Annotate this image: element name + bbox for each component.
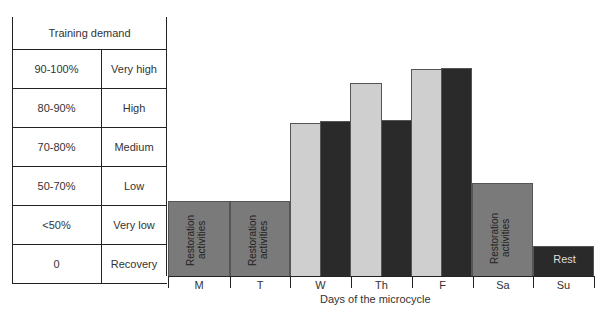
range-cell: 70-80% — [12, 127, 101, 166]
training-demand-table: Training demand 90-100% Very high 80-90%… — [12, 17, 167, 283]
level-cell: Low — [101, 166, 167, 205]
bar-friday-session2 — [441, 68, 472, 277]
bar-wednesday-session2 — [320, 121, 351, 277]
day-label: T — [230, 279, 290, 291]
bar-monday: Restoration activities — [168, 201, 230, 277]
level-cell: Recovery — [101, 244, 167, 283]
level-cell: Very high — [101, 49, 167, 88]
day-label: M — [168, 279, 230, 291]
day-label: Th — [351, 279, 412, 291]
level-cell: Very low — [101, 205, 167, 244]
rest-label: Rest — [534, 253, 595, 265]
bar-thursday-session1 — [350, 83, 382, 277]
restoration-label: Restoration activities — [489, 206, 515, 270]
x-axis-title: Days of the microcycle — [320, 293, 431, 305]
range-cell: 80-90% — [12, 88, 101, 127]
x-axis — [168, 276, 595, 277]
bar-saturday: Restoration activities — [472, 183, 533, 277]
restoration-label: Restoration activities — [247, 208, 273, 272]
tick — [594, 276, 595, 288]
range-cell: <50% — [12, 205, 101, 244]
restoration-label: Restoration activities — [185, 208, 211, 272]
level-cell: Medium — [101, 127, 167, 166]
bar-friday-session1 — [411, 69, 442, 277]
range-cell: 50-70% — [12, 166, 101, 205]
bar-sunday: Rest — [533, 246, 594, 277]
day-label: W — [290, 279, 351, 291]
range-cell: 0 — [12, 244, 101, 283]
bar-thursday-session2 — [381, 120, 412, 277]
level-cell: High — [101, 88, 167, 127]
day-label: F — [412, 279, 473, 291]
day-label: Su — [533, 279, 594, 291]
range-cell: 90-100% — [12, 49, 101, 88]
table-divider — [12, 283, 167, 284]
day-label: Sa — [473, 279, 533, 291]
bar-tuesday: Restoration activities — [230, 201, 290, 277]
table-header: Training demand — [12, 17, 167, 49]
bar-wednesday-session1 — [290, 123, 321, 277]
